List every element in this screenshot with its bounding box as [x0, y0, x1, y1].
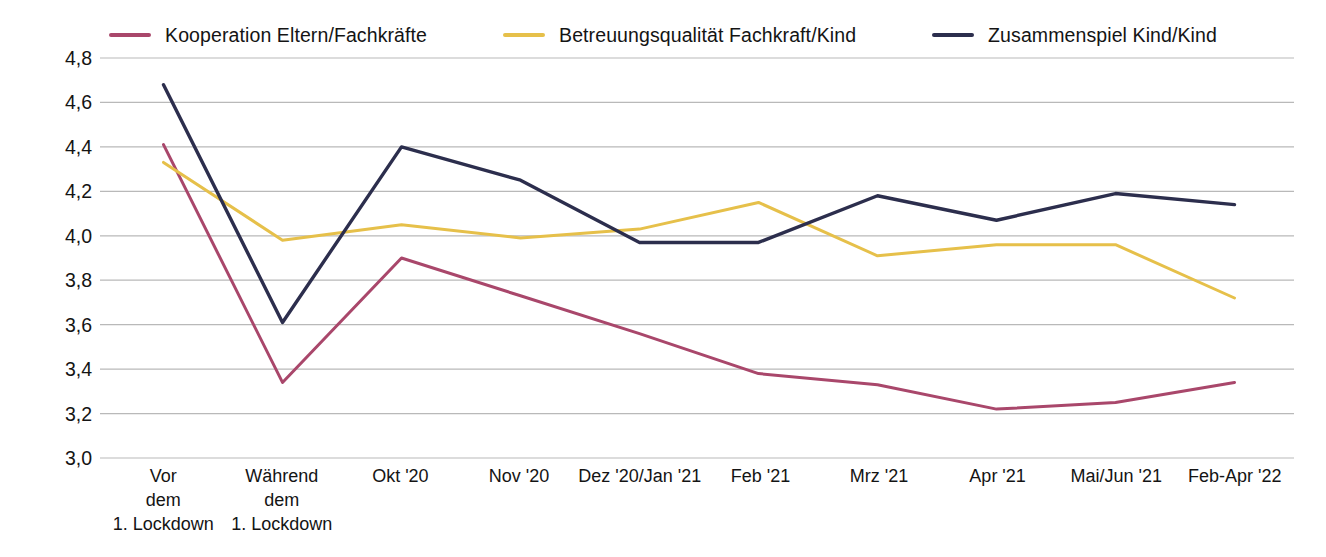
- x-axis-tick-label-line: Vor: [104, 464, 223, 488]
- x-axis-tick-label-line: Okt '20: [341, 464, 460, 488]
- plot-svg: [104, 58, 1294, 458]
- y-axis-tick-label: 3,8: [65, 269, 92, 292]
- x-axis-tick-label-line: Nov '20: [460, 464, 579, 488]
- x-axis-tick-label: Vordem1. Lockdown: [104, 458, 223, 550]
- plot-area-wrapper: 4,84,64,44,24,03,83,63,43,23,0: [0, 58, 1326, 458]
- legend-swatch-icon-zusammenspiel: [932, 33, 974, 37]
- x-axis-tick-label: Nov '20: [460, 458, 579, 550]
- x-axis-tick-label: Mrz '21: [820, 458, 939, 550]
- y-axis-tick-label: 4,6: [65, 91, 92, 114]
- y-axis-tick-label: 3,6: [65, 313, 92, 336]
- y-axis-tick-label: 4,8: [65, 47, 92, 70]
- x-axis-tick-label-line: 1. Lockdown: [104, 512, 223, 536]
- x-axis-tick-label-line: Mai/Jun '21: [1057, 464, 1176, 488]
- x-axis-tick-label-line: Feb '21: [701, 464, 820, 488]
- x-axis-tick-label: Dez '20/Jan '21: [578, 458, 701, 550]
- legend-item-zusammenspiel[interactable]: Zusammenspiel Kind/Kind: [932, 24, 1217, 47]
- y-axis-tick-label: 3,4: [65, 358, 92, 381]
- legend-item-kooperation[interactable]: Kooperation Eltern/Fachkräfte: [109, 24, 427, 47]
- y-axis-tick-label: 4,4: [65, 135, 92, 158]
- y-axis-tick-label: 4,2: [65, 180, 92, 203]
- x-axis-tick-label-line: Dez '20/Jan '21: [578, 464, 701, 488]
- x-axis: Vordem1. LockdownWährenddem1. LockdownOk…: [104, 458, 1294, 550]
- legend-swatch-icon-betreuungsqualitaet: [503, 33, 545, 37]
- legend-label-betreuungsqualitaet: Betreuungsqualität Fachkraft/Kind: [559, 24, 856, 47]
- chart-legend: Kooperation Eltern/Fachkräfte Betreuungs…: [0, 18, 1326, 52]
- y-axis: 4,84,64,44,24,03,83,63,43,23,0: [0, 58, 100, 458]
- y-axis-tick-label: 3,2: [65, 402, 92, 425]
- x-axis-tick-label: Mai/Jun '21: [1057, 458, 1176, 550]
- y-axis-tick-label: 4,0: [65, 224, 92, 247]
- series-line: [164, 85, 1235, 323]
- x-axis-tick-label-line: dem: [223, 488, 342, 512]
- line-chart: Kooperation Eltern/Fachkräfte Betreuungs…: [0, 0, 1326, 557]
- x-axis-tick-label: Feb '21: [701, 458, 820, 550]
- series-line: [164, 162, 1235, 298]
- x-axis-tick-label: Feb-Apr '22: [1175, 458, 1294, 550]
- x-axis-tick-label: Währenddem1. Lockdown: [223, 458, 342, 550]
- x-axis-tick-label-line: Feb-Apr '22: [1175, 464, 1294, 488]
- x-axis-tick-label-line: 1. Lockdown: [223, 512, 342, 536]
- x-axis-tick-label-line: dem: [104, 488, 223, 512]
- y-axis-tick-label: 3,0: [65, 447, 92, 470]
- legend-item-betreuungsqualitaet[interactable]: Betreuungsqualität Fachkraft/Kind: [503, 24, 856, 47]
- plot-area: [104, 58, 1294, 458]
- x-axis-tick-label: Apr '21: [938, 458, 1057, 550]
- legend-swatch-icon-kooperation: [109, 33, 151, 37]
- x-axis-tick-label-line: Apr '21: [938, 464, 1057, 488]
- x-axis-tick-label-line: Während: [223, 464, 342, 488]
- legend-label-kooperation: Kooperation Eltern/Fachkräfte: [165, 24, 427, 47]
- x-axis-tick-label-line: Mrz '21: [820, 464, 939, 488]
- x-axis-tick-label: Okt '20: [341, 458, 460, 550]
- legend-label-zusammenspiel: Zusammenspiel Kind/Kind: [988, 24, 1217, 47]
